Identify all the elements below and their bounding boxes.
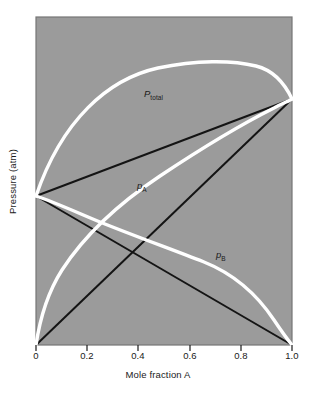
label-p-b-sub: B [221, 255, 225, 262]
label-p-a: pA [137, 180, 147, 193]
xtick-label-1: 0.2 [72, 350, 102, 361]
xtick-label-3: 0.6 [175, 350, 205, 361]
label-p-a-sub: A [142, 186, 146, 193]
label-p-total: Ptotal [144, 88, 163, 101]
label-p-total-sub: total [150, 94, 163, 101]
xtick-label-4: 0.8 [226, 350, 256, 361]
xtick-label-5: 1.0 [277, 350, 307, 361]
y-axis-title: Pressure (atm) [7, 117, 18, 247]
x-axis-title: Mole fraction A [0, 369, 316, 380]
vapor-pressure-diagram: 0 0.2 0.4 0.6 0.8 1.0 Mole fraction A Pr… [0, 0, 316, 398]
label-p-b: pB [216, 249, 226, 262]
xtick-label-2: 0.4 [123, 350, 153, 361]
plot-canvas [0, 0, 316, 398]
xtick-label-0: 0 [21, 350, 51, 361]
